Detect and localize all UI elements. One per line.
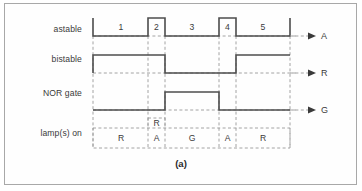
row-label-lamps-on: lamp(s) on [8, 128, 82, 138]
cycle-number-1: 1 [100, 22, 142, 32]
waveform-nor-gate [93, 92, 290, 110]
output-label-a: A [321, 31, 327, 41]
cycle-number-4: 4 [219, 22, 236, 32]
output-label-r: R [321, 68, 328, 78]
lamp-segment-5: R [242, 133, 284, 143]
row-label-bistable: bistable [16, 54, 82, 64]
output-arrowhead-g [308, 107, 316, 114]
output-arrowhead-r [308, 70, 316, 77]
cycle-number-3: 3 [171, 22, 213, 32]
output-arrowhead-a [308, 33, 316, 40]
cycle-number-5: 5 [242, 22, 284, 32]
row-label-astable: astable [16, 24, 82, 34]
lamp-segment-1: R [100, 133, 142, 143]
lamp-segment-3: G [171, 133, 213, 143]
lamp-segment-2-bottom: A [148, 133, 165, 143]
row-label-nor-gate: NOR gate [16, 88, 82, 98]
figure-caption: (a) [0, 158, 362, 169]
output-label-g: G [321, 105, 328, 115]
cycle-number-2: 2 [148, 22, 165, 32]
lamp-segment-4: A [219, 133, 236, 143]
lamp-segment-2-top: R [148, 118, 165, 128]
waveform-bistable [93, 55, 290, 73]
